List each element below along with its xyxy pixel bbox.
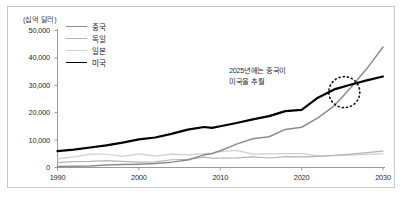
crossover-annotation: 2025년에는 중국이 미국을 추월 (229, 66, 286, 87)
crossover-highlight-circle (329, 77, 360, 108)
chart-plot-area (0, 0, 402, 201)
chart-figure: (십억 달러) 010,00020,00030,00040,00050,000 … (0, 0, 402, 201)
legend-item-label: 미국 (92, 57, 105, 68)
legend-item-label: 독일 (92, 33, 105, 44)
legend-item-label: 중국 (92, 21, 105, 32)
crossover-annotation-line2: 미국을 추월 (229, 77, 286, 88)
legend-item-4[interactable]: 미국 (66, 57, 126, 69)
crossover-annotation-line1: 2025년에는 중국이 (229, 66, 286, 77)
legend-swatch-icon (66, 50, 87, 51)
legend-swatch-icon (66, 62, 87, 63)
legend-swatch-icon (66, 26, 87, 27)
legend-item-1[interactable]: 중국 (66, 20, 126, 32)
legend-swatch-icon (66, 38, 87, 39)
legend-item-3[interactable]: 일본 (66, 44, 126, 56)
legend-item-2[interactable]: 독일 (66, 32, 126, 44)
legend-item-label: 일본 (92, 45, 105, 56)
chart-legend: 중국독일일본미국 (66, 20, 126, 69)
